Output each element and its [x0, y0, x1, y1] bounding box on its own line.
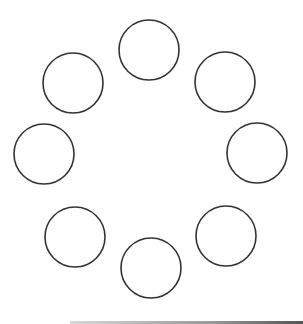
- circle-lower-left: [45, 207, 105, 267]
- circle-ring-diagram: [0, 0, 303, 324]
- circle-lower-right: [196, 206, 256, 266]
- circle-bottom: [121, 238, 181, 298]
- circle-left: [14, 124, 74, 184]
- circle-right: [227, 123, 287, 183]
- circle-upper-left: [43, 53, 103, 113]
- circle-top: [119, 20, 179, 80]
- circle-upper-right: [195, 52, 255, 112]
